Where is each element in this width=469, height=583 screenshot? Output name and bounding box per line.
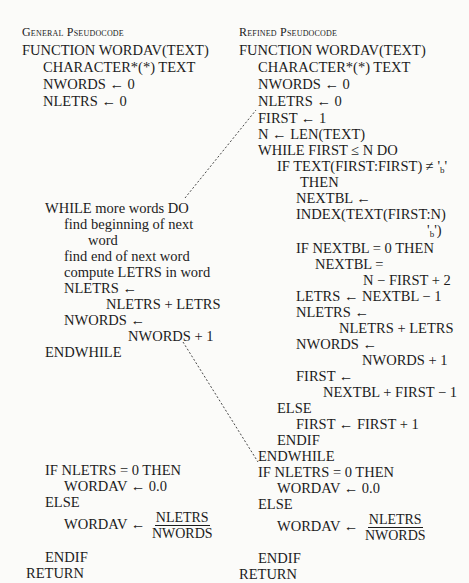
dashed-connector-lines [0,0,469,583]
dashed-connector [185,110,256,198]
dashed-connector [183,342,258,462]
